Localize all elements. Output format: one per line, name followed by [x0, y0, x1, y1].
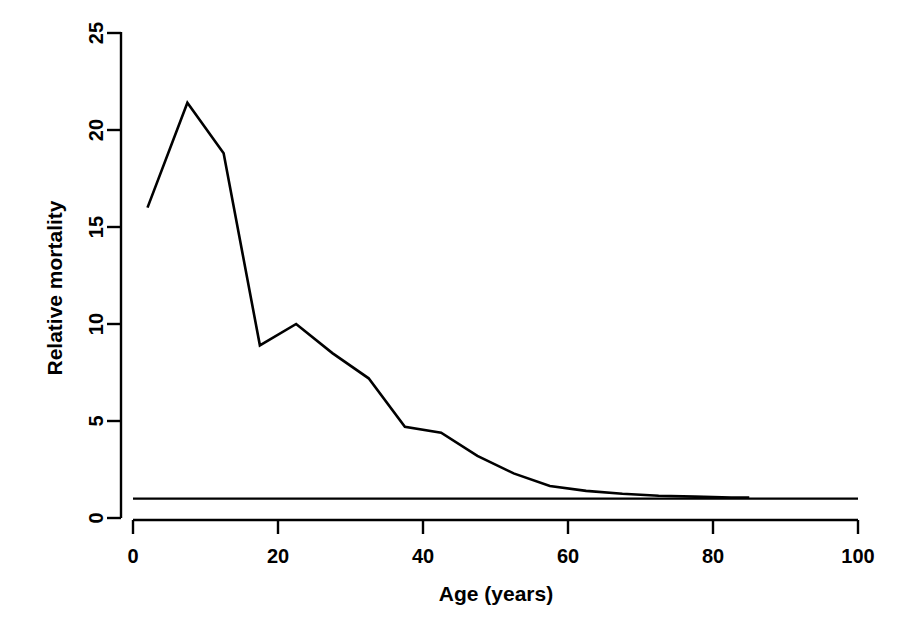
- y-tick-label-25: 25: [85, 22, 107, 44]
- mortality-data-series: [148, 103, 750, 498]
- x-tick-label-40: 40: [412, 545, 434, 567]
- y-axis-title: Relative mortality: [43, 200, 66, 375]
- x-tick-label-20: 20: [267, 545, 289, 567]
- y-tick-label-10: 10: [85, 313, 107, 335]
- y-tick-label-20: 20: [85, 119, 107, 141]
- y-tick-label-0: 0: [85, 512, 107, 523]
- x-tick-label-60: 60: [557, 545, 579, 567]
- x-tick-label-0: 0: [127, 545, 138, 567]
- y-tick-label-15: 15: [85, 216, 107, 238]
- chart-container: 0 5 10 15 20 25 0 20 40 60 80 100 Age (y…: [0, 0, 914, 642]
- y-tick-label-5: 5: [85, 415, 107, 426]
- y-axis-tick-labels: 0 5 10 15 20 25: [85, 22, 107, 524]
- x-axis-tick-labels: 0 20 40 60 80 100: [127, 545, 874, 567]
- x-tick-label-80: 80: [702, 545, 724, 567]
- x-tick-label-100: 100: [841, 545, 874, 567]
- y-axis-ticks: [107, 33, 121, 518]
- x-axis-title: Age (years): [439, 582, 553, 605]
- mortality-line-chart: 0 5 10 15 20 25 0 20 40 60 80 100 Age (y…: [0, 0, 914, 642]
- x-axis-ticks: [133, 520, 858, 534]
